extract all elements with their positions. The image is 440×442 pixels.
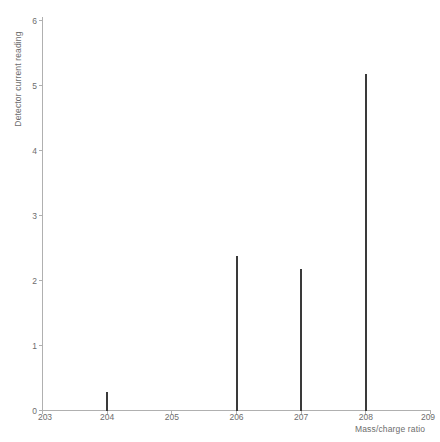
x-tick-labels: 203 204 205 206 207 208 209 bbox=[38, 412, 435, 422]
x-tick-label: 205 bbox=[165, 412, 179, 422]
y-tick-label: 5 bbox=[32, 81, 37, 91]
x-axis-title: Mass/charge ratio bbox=[355, 424, 425, 434]
y-tick-labels: 0 1 2 3 4 5 6 bbox=[32, 16, 37, 416]
x-tick-label: 208 bbox=[359, 412, 373, 422]
x-tick-label: 209 bbox=[421, 412, 435, 422]
x-tick-label: 204 bbox=[100, 412, 114, 422]
x-tick-label: 207 bbox=[294, 412, 308, 422]
peak-series bbox=[107, 74, 366, 411]
mass-spectrum-chart: 0 1 2 3 4 5 6 203 204 205 206 207 208 20… bbox=[0, 0, 440, 442]
y-tick-label: 2 bbox=[32, 276, 37, 286]
x-tick-label: 203 bbox=[38, 412, 52, 422]
plot-area: 0 1 2 3 4 5 6 203 204 205 206 207 208 20… bbox=[0, 0, 440, 442]
y-tick-label: 4 bbox=[32, 146, 37, 156]
x-tick-label: 206 bbox=[229, 412, 243, 422]
y-tick-label: 0 bbox=[32, 406, 37, 416]
y-tick-label: 6 bbox=[32, 16, 37, 26]
y-axis-title: Detector current reading bbox=[13, 14, 23, 144]
y-tick-label: 3 bbox=[32, 211, 37, 221]
y-tick-label: 1 bbox=[32, 341, 37, 351]
